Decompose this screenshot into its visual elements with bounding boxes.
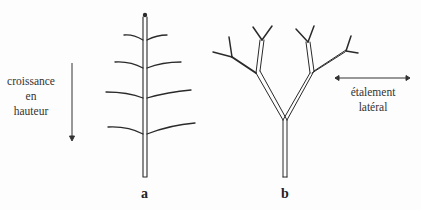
vertical-growth-label-line3: hauteur — [0, 104, 62, 119]
lateral-spread-label-line1: étalement — [340, 85, 406, 100]
horizontal-spread-arrow — [335, 76, 410, 81]
vertical-growth-label-line2: en — [0, 89, 62, 104]
tree-b — [213, 26, 358, 177]
vertical-growth-label-line1: croissance — [0, 74, 62, 89]
lateral-spread-label-line2: latéral — [340, 100, 406, 115]
vertical-growth-arrow — [70, 63, 75, 141]
vertical-growth-label: croissance en hauteur — [0, 74, 62, 119]
figure-a-label: a — [141, 186, 148, 202]
figure-b-label: b — [281, 186, 289, 202]
tree-a — [106, 13, 195, 177]
diagram-canvas: croissance en hauteur étalement latéral … — [0, 0, 421, 210]
lateral-spread-label: étalement latéral — [340, 85, 406, 115]
